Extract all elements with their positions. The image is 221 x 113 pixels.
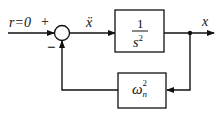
- block-denominator: s2: [133, 34, 143, 50]
- denominator-exponent: 2: [138, 33, 143, 43]
- feedback-gain: ω2n: [132, 82, 151, 97]
- output-label: x: [202, 15, 208, 29]
- gain-superscript: 2: [143, 79, 148, 88]
- signal-label: ẍ: [86, 16, 92, 30]
- minus-sign: −: [47, 40, 56, 55]
- feedback-arrow-out: [62, 41, 118, 90]
- summing-junction: [55, 26, 70, 41]
- omega-symbol: ω: [132, 81, 143, 97]
- input-label: r=0: [9, 16, 31, 30]
- block-diagram-lines: [0, 0, 221, 113]
- feedback-arrow-in: [167, 33, 190, 90]
- plus-sign: +: [41, 15, 49, 29]
- gain-subscript: n: [143, 90, 148, 99]
- block-numerator: 1: [137, 17, 144, 30]
